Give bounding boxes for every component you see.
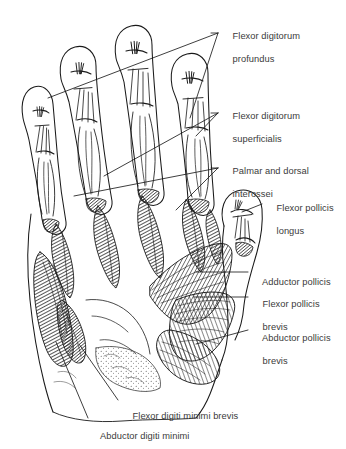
- leader-fdp-branch: [190, 33, 218, 118]
- label-abductor-pollicis-brevis: Abductor pollicis brevis: [252, 322, 331, 379]
- label-line: Flexor pollicis: [263, 299, 320, 309]
- label-line: Abductor pollicis: [262, 333, 331, 343]
- label-line: Palmar and dorsal: [233, 166, 309, 176]
- label-line: Adductor pollicis: [262, 277, 331, 287]
- label-line: brevis: [263, 356, 288, 366]
- leader-fds-branch: [196, 113, 218, 136]
- leader-fdp-main: [48, 33, 218, 98]
- anatomical-figure: Flexor digitorum profundus Flexor digito…: [0, 0, 346, 449]
- label-line: Flexor digitorum: [233, 31, 300, 41]
- finger-little: [22, 86, 66, 234]
- label-line: profundus: [233, 54, 275, 64]
- label-flexor-pollicis-longus: Flexor pollicis longus: [266, 192, 334, 249]
- label-line: Abductor digiti minimi: [100, 431, 189, 441]
- label-flexor-digitorum-superficialis: Flexor digitorum superficialis: [222, 100, 300, 157]
- finger-ring: [60, 46, 112, 214]
- finger-index: [171, 53, 214, 215]
- label-line: Flexor pollicis: [277, 203, 334, 213]
- label-line: Flexor digitorum: [233, 111, 300, 121]
- label-abductor-digiti-minimi: Abductor digiti minimi: [90, 420, 189, 449]
- label-line: longus: [277, 226, 305, 236]
- label-line: superficialis: [233, 134, 282, 144]
- finger-middle: [115, 25, 164, 205]
- label-flexor-digitorum-profundus: Flexor digitorum profundus: [222, 20, 300, 77]
